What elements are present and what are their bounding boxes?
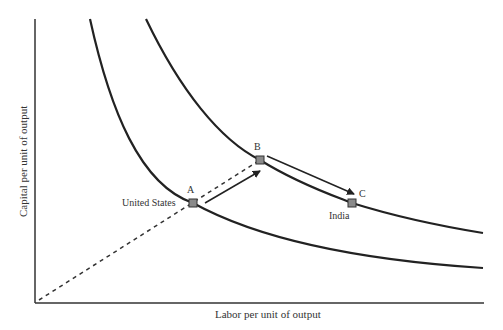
united-states-label: United States — [122, 197, 176, 208]
capital-labor-ray — [39, 160, 260, 300]
point-c-marker — [348, 199, 356, 207]
point-b-label: B — [254, 141, 261, 152]
point-c-label: C — [359, 188, 366, 199]
point-a-label: A — [187, 184, 195, 195]
isoquant-diagram: A B C United States India Labor per unit… — [0, 0, 503, 330]
point-b-marker — [256, 156, 264, 164]
x-axis-label: Labor per unit of output — [215, 308, 321, 320]
arrow-a-to-b — [205, 171, 260, 203]
point-a-marker — [189, 199, 197, 207]
india-label: India — [329, 210, 350, 221]
arrow-b-to-c — [267, 156, 354, 194]
y-axis-label: Capital per unit of output — [17, 106, 29, 217]
